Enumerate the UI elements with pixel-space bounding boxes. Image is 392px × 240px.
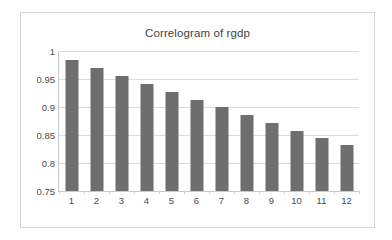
bar-lag-8 (240, 115, 253, 191)
bar-lag-5 (165, 92, 178, 191)
x-tick-label-12: 12 (341, 195, 352, 206)
x-tick-mark (234, 191, 235, 194)
x-tick-mark (134, 191, 135, 194)
bar-lag-7 (215, 107, 228, 191)
bar-slot (234, 51, 259, 191)
bar-slot (309, 51, 334, 191)
x-tick-label-10: 10 (291, 195, 302, 206)
bar-lag-3 (115, 76, 128, 191)
y-axis-tick-labels: 0.750.80.850.90.951 (21, 51, 55, 191)
bar-lag-10 (290, 131, 303, 191)
x-tick-mark (109, 191, 110, 194)
x-tick-label-2: 2 (94, 195, 99, 206)
x-tick-label-6: 6 (194, 195, 199, 206)
x-tick-mark (184, 191, 185, 194)
x-tick-mark (359, 191, 360, 194)
y-tick-label-0.95: 0.95 (21, 74, 55, 85)
x-tick-label-9: 9 (269, 195, 274, 206)
bar-slot (59, 51, 84, 191)
x-tick-label-8: 8 (244, 195, 249, 206)
x-tick-mark (309, 191, 310, 194)
bar-lag-9 (265, 123, 278, 191)
x-tick-label-3: 3 (119, 195, 124, 206)
x-tick-mark (259, 191, 260, 194)
bar-lag-4 (140, 84, 153, 191)
y-tick-label-0.8: 0.8 (21, 158, 55, 169)
chart-title: Correlogram of rgdp (21, 27, 374, 39)
bar-slot (159, 51, 184, 191)
bar-slot (134, 51, 159, 191)
y-tick-label-1: 1 (21, 46, 55, 57)
x-tick-mark (209, 191, 210, 194)
bar-slot (334, 51, 359, 191)
bar-slot (259, 51, 284, 191)
bar-lag-11 (315, 138, 328, 191)
bar-slot (284, 51, 309, 191)
x-tick-mark (159, 191, 160, 194)
bar-slot (109, 51, 134, 191)
bar-slot (84, 51, 109, 191)
x-tick-label-11: 11 (317, 195, 327, 206)
bar-lag-6 (190, 100, 203, 191)
bar-slot (209, 51, 234, 191)
x-tick-mark (59, 191, 60, 194)
bar-lag-12 (340, 145, 353, 191)
bar-lag-2 (90, 68, 103, 191)
y-tick-label-0.9: 0.9 (21, 102, 55, 113)
x-tick-mark (284, 191, 285, 194)
x-tick-mark (334, 191, 335, 194)
x-tick-label-1: 1 (69, 195, 74, 206)
bar-lag-1 (65, 60, 78, 191)
x-tick-mark (84, 191, 85, 194)
y-tick-label-0.75: 0.75 (21, 186, 55, 197)
x-tick-label-5: 5 (169, 195, 174, 206)
x-tick-label-4: 4 (144, 195, 149, 206)
x-axis-tick-labels: 123456789101112 (59, 195, 359, 211)
plot-area (59, 51, 359, 191)
x-tick-label-7: 7 (219, 195, 224, 206)
y-tick-label-0.85: 0.85 (21, 130, 55, 141)
chart-frame: Correlogram of rgdp 0.750.80.850.90.951 … (20, 12, 375, 228)
bar-slot (184, 51, 209, 191)
